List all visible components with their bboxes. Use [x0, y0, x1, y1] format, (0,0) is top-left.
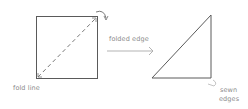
folded-triangle [152, 15, 211, 78]
sewn-edges-label-line1: sewn [220, 86, 237, 94]
sewn-edges-pointer-icon [208, 80, 216, 86]
folded-edge-label: folded edge [109, 35, 149, 43]
sewn-edges-label-line2: edges [219, 95, 239, 103]
dashed-fold-line [38, 18, 96, 77]
diagram-canvas [0, 0, 248, 109]
fold-line-label: fold line [13, 84, 40, 92]
